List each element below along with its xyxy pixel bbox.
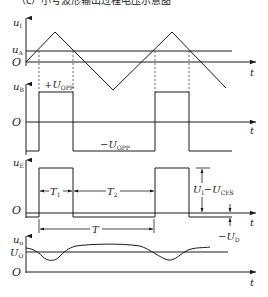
ub-ylabel: uB	[13, 81, 24, 93]
t-label: t	[250, 125, 255, 136]
plot-uo: uo UO O t	[10, 234, 256, 288]
t-label: t	[250, 217, 255, 228]
origin-label: O	[12, 116, 21, 129]
origin-label: O	[12, 266, 21, 279]
uo-ylabel: uo	[13, 234, 23, 246]
origin-label: O	[12, 204, 21, 217]
waveform-diagram: （c）小号波形输出过程电压示意图 uI uA O t uB O t +UOPP …	[0, 0, 268, 297]
uo-level-label: UO	[10, 247, 23, 259]
ua-label: uA	[12, 44, 23, 56]
high-level-label: +UOPP	[44, 79, 74, 91]
caption: （c）小号波形输出过程电压示意图	[16, 0, 172, 6]
plot-ub: uB O t +UOPP −UOPP	[12, 79, 256, 155]
t-label: t	[250, 67, 255, 78]
neg-ud-label: −UD	[218, 231, 240, 243]
low-level-label: −UOPP	[100, 139, 130, 151]
origin-label: O	[12, 56, 21, 69]
ui-ylabel: uI	[13, 17, 22, 29]
t-label: t	[250, 277, 255, 288]
plot-ue: uE O t T1 T2 T UI−UCES −UD	[12, 157, 256, 243]
ue-ylabel: uE	[13, 157, 24, 169]
